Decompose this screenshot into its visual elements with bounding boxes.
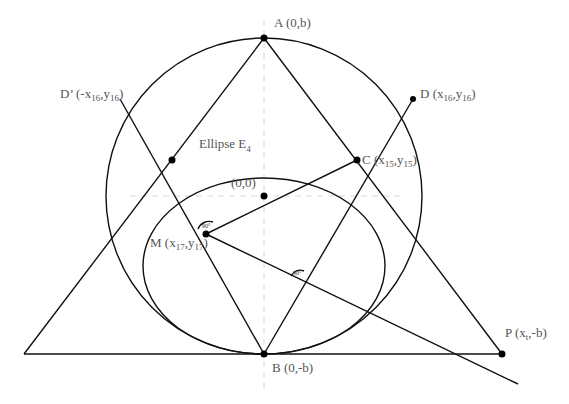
geometry-diagram: 90° 90° A (0,b) B (0,-b) C (x15,y15) D (… <box>0 0 569 404</box>
point-A <box>261 35 268 42</box>
line-M-outward <box>206 234 518 384</box>
label-C: C (x15,y15) <box>362 152 417 169</box>
point-P <box>499 351 506 358</box>
label-M: M (x17,y17) <box>150 235 208 252</box>
label-P: P (xt,-b) <box>505 325 547 342</box>
point-D <box>410 96 416 102</box>
label-A: A (0,b) <box>274 15 311 30</box>
label-Dprime: D’ (-x16,y16) <box>60 86 123 103</box>
point-C <box>354 157 361 164</box>
label-D: D (x16,y16) <box>420 86 476 103</box>
line-M-C <box>206 160 357 234</box>
angle-label-intersection: 90° <box>293 270 302 276</box>
point-B <box>261 351 268 358</box>
label-ellipse: Ellipse E4 <box>199 136 251 154</box>
angle-label-M: 90° <box>202 223 211 229</box>
point-C-mirror <box>169 157 176 164</box>
label-B: B (0,-b) <box>272 360 313 375</box>
point-origin <box>261 193 268 200</box>
label-origin: (0,0) <box>231 175 256 190</box>
